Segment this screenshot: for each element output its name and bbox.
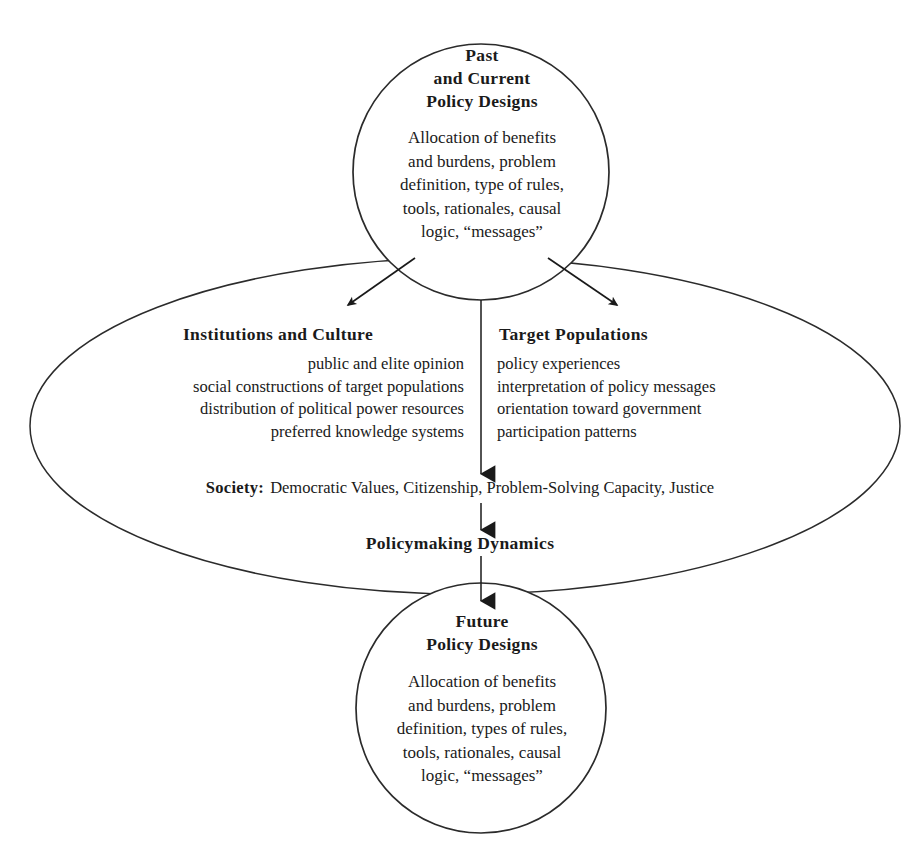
list-item: participation patterns [497, 421, 827, 444]
institutions-list: public and elite opinion social construc… [96, 353, 464, 443]
bottom-policy-node: Future Policy Designs Allocation of bene… [358, 610, 606, 788]
top-node-title-line: and Current [356, 67, 608, 90]
top-node-title: Past and Current Policy Designs [356, 44, 608, 113]
bottom-node-body-line: tools, rationales, causal [358, 741, 606, 765]
list-item: preferred knowledge systems [96, 421, 464, 444]
bottom-node-body-line: definition, types of rules, [358, 717, 606, 741]
top-node-title-line: Policy Designs [356, 90, 608, 113]
top-node-body-line: tools, rationales, causal [356, 197, 608, 221]
policymaking-dynamics-label: Policymaking Dynamics [0, 532, 920, 554]
bottom-node-body-line: and burdens, problem [358, 694, 606, 718]
institutions-and-culture-group: Institutions and Culture public and elit… [96, 323, 464, 443]
bottom-node-title-line: Policy Designs [358, 633, 606, 656]
diagram-canvas: Past and Current Policy Designs Allocati… [0, 0, 920, 855]
society-value: Democratic Values, Citizenship, Problem-… [270, 478, 714, 497]
bottom-node-body-line: Allocation of benefits [358, 670, 606, 694]
institutions-heading: Institutions and Culture [96, 323, 464, 345]
bottom-node-body: Allocation of benefits and burdens, prob… [358, 670, 606, 788]
list-item: public and elite opinion [96, 353, 464, 376]
target-populations-heading: Target Populations [497, 323, 827, 345]
bottom-node-title: Future Policy Designs [358, 610, 606, 656]
list-item: social constructions of target populatio… [96, 376, 464, 399]
top-node-title-line: Past [356, 44, 608, 67]
list-item: interpretation of policy messages [497, 376, 827, 399]
top-node-body-line: definition, type of rules, [356, 173, 608, 197]
list-item: orientation toward government [497, 398, 827, 421]
society-row: Society:Democratic Values, Citizenship, … [0, 477, 920, 499]
bottom-node-body-line: logic, “messages” [358, 764, 606, 788]
target-populations-group: Target Populations policy experiences in… [497, 323, 827, 443]
bottom-node-title-line: Future [358, 610, 606, 633]
top-node-body: Allocation of benefits and burdens, prob… [356, 126, 608, 244]
top-node-body-line: Allocation of benefits [356, 126, 608, 150]
society-label: Society: [206, 478, 264, 497]
list-item: policy experiences [497, 353, 827, 376]
target-populations-list: policy experiences interpretation of pol… [497, 353, 827, 443]
top-policy-node: Past and Current Policy Designs Allocati… [356, 44, 608, 244]
list-item: distribution of political power resource… [96, 398, 464, 421]
top-node-body-line: logic, “messages” [356, 220, 608, 244]
arrow-to-institutions [348, 258, 415, 305]
arrow-to-target-populations [548, 258, 617, 305]
top-node-body-line: and burdens, problem [356, 150, 608, 174]
